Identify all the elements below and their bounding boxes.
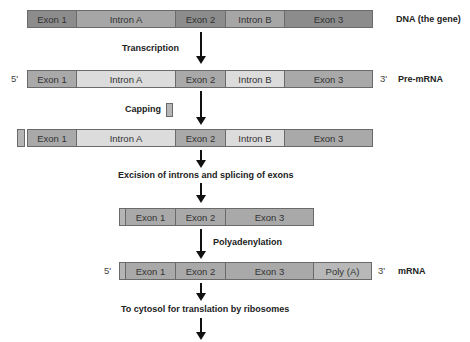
pre-mrna-bar: Exon 1 Intron A Exon 2 Intron B Exon 3: [27, 70, 373, 88]
spliced-bar: Exon 1 Exon 2 Exon 3: [119, 208, 314, 226]
arrow-down-icon: [196, 150, 206, 168]
mrna-label: mRNA: [398, 266, 426, 276]
step-capping: Capping: [125, 104, 161, 114]
pre-mrna-exon-3: Exon 3: [285, 70, 373, 88]
dna-exon-3: Exon 3: [285, 10, 373, 28]
pre-mrna-exon-2: Exon 2: [176, 70, 226, 88]
cap-icon: [166, 103, 173, 117]
dna-exon-1: Exon 1: [27, 10, 77, 28]
mrna-5prime: 5': [104, 265, 111, 276]
spliced-exon-3: Exon 3: [226, 208, 314, 226]
mrna-poly-a: Poly (A): [314, 262, 372, 280]
mrna-exon-2: Exon 2: [176, 262, 226, 280]
dna-intron-b: Intron B: [226, 10, 285, 28]
pre-mrna-3prime: 3': [380, 73, 387, 84]
step-polyadenylation: Polyadenylation: [213, 237, 282, 247]
spliced-cap: [119, 208, 126, 226]
arrow-down-icon: [196, 91, 206, 125]
mrna-exon-3: Exon 3: [226, 262, 314, 280]
arrow-down-icon: [196, 32, 206, 64]
dna-label: DNA (the gene): [396, 14, 461, 24]
arrow-down-icon: [196, 183, 206, 203]
capped-exon-2: Exon 2: [176, 129, 226, 147]
capped-exon-3: Exon 3: [285, 129, 373, 147]
spliced-exon-1: Exon 1: [126, 208, 176, 226]
pre-mrna-intron-a: Intron A: [77, 70, 176, 88]
pre-mrna-5prime: 5': [11, 73, 18, 84]
pre-mrna-exon-1: Exon 1: [27, 70, 77, 88]
capped-bar: Exon 1 Intron A Exon 2 Intron B Exon 3: [27, 129, 373, 147]
cap-block: [17, 129, 25, 147]
capped-intron-a: Intron A: [77, 129, 176, 147]
arrow-down-icon: [196, 229, 206, 259]
mrna-cap: [119, 262, 126, 280]
arrow-down-icon: [196, 318, 206, 340]
pre-mrna-intron-b: Intron B: [226, 70, 285, 88]
pre-mrna-label: Pre-mRNA: [398, 74, 443, 84]
mrna-3prime: 3': [378, 265, 385, 276]
dna-exon-2: Exon 2: [176, 10, 226, 28]
step-transcription: Transcription: [122, 43, 179, 53]
mrna-bar: Exon 1 Exon 2 Exon 3 Poly (A): [119, 262, 372, 280]
dna-bar: Exon 1 Intron A Exon 2 Intron B Exon 3: [27, 10, 373, 28]
step-translation: To cytosol for translation by ribosomes: [121, 304, 289, 314]
capped-intron-b: Intron B: [226, 129, 285, 147]
capped-exon-1: Exon 1: [27, 129, 77, 147]
dna-intron-a: Intron A: [77, 10, 176, 28]
arrow-down-icon: [196, 283, 206, 301]
mrna-exon-1: Exon 1: [126, 262, 176, 280]
step-splicing: Excision of introns and splicing of exon…: [118, 170, 294, 180]
spliced-exon-2: Exon 2: [176, 208, 226, 226]
